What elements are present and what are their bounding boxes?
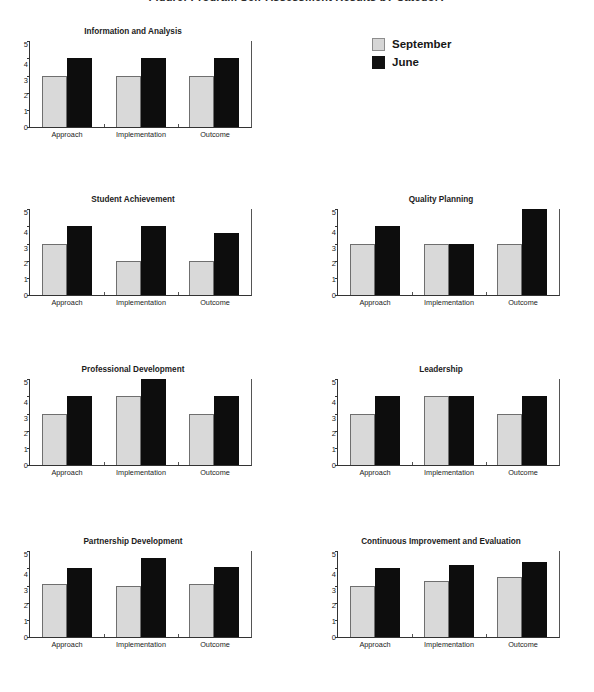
bar-group xyxy=(30,379,104,465)
bar-june-implementation[interactable] xyxy=(449,565,474,637)
y-axis-tick-label: 5 xyxy=(24,379,28,387)
bar-group xyxy=(177,551,251,637)
y-axis-tick-label: 4 xyxy=(24,571,28,579)
bar-september-outcome[interactable] xyxy=(189,584,214,637)
bar-june-outcome[interactable] xyxy=(522,209,547,295)
legend-label-june: June xyxy=(392,57,419,69)
chart-title: Continuous Improvement and Evaluation xyxy=(322,538,560,546)
x-axis-label-implementation: Implementation xyxy=(104,299,178,306)
x-axis-label-outcome: Outcome xyxy=(486,299,560,306)
y-axis-tick-label: 5 xyxy=(24,209,28,217)
bar-june-approach[interactable] xyxy=(375,226,400,295)
bar-september-approach[interactable] xyxy=(350,244,375,296)
bar-june-implementation[interactable] xyxy=(449,396,474,465)
bar-june-approach[interactable] xyxy=(375,568,400,637)
bar-september-approach[interactable] xyxy=(42,244,67,296)
bar-groups xyxy=(30,209,251,295)
bar-september-approach[interactable] xyxy=(42,76,67,128)
bar-september-implementation[interactable] xyxy=(424,244,449,296)
plot-canvas xyxy=(30,209,252,296)
bar-june-outcome[interactable] xyxy=(214,233,239,295)
x-axis-labels: ApproachImplementationOutcome xyxy=(30,131,252,138)
bar-june-outcome[interactable] xyxy=(214,567,239,638)
x-axis-label-outcome: Outcome xyxy=(178,131,252,138)
plot-canvas xyxy=(338,209,560,296)
chart-panel: Leadership543210ApproachImplementationOu… xyxy=(322,366,560,477)
x-axis-label-outcome: Outcome xyxy=(178,469,252,476)
chart-title: Information and Analysis xyxy=(14,28,252,36)
bar-groups xyxy=(30,379,251,465)
y-axis-tick-label: 4 xyxy=(24,61,28,69)
x-axis-label-outcome: Outcome xyxy=(486,469,560,476)
bar-september-approach[interactable] xyxy=(42,414,67,466)
legend-item-september: September xyxy=(372,38,451,51)
bar-june-approach[interactable] xyxy=(67,568,92,637)
chart-legend: September June xyxy=(372,38,451,69)
chart-panel: Information and Analysis543210ApproachIm… xyxy=(14,28,252,139)
bar-group xyxy=(338,379,412,465)
bar-june-approach[interactable] xyxy=(375,396,400,465)
x-axis-label-approach: Approach xyxy=(30,469,104,476)
chart-panel: Student Achievement543210ApproachImpleme… xyxy=(14,196,252,307)
bar-june-implementation[interactable] xyxy=(449,244,474,296)
bar-group xyxy=(412,209,486,295)
chart-title: Student Achievement xyxy=(14,196,252,204)
y-axis: 543210 xyxy=(322,209,338,295)
bar-june-outcome[interactable] xyxy=(214,396,239,465)
bar-september-implementation[interactable] xyxy=(424,581,449,637)
bar-june-approach[interactable] xyxy=(67,396,92,465)
chart-title: Quality Planning xyxy=(322,196,560,204)
bar-june-approach[interactable] xyxy=(67,226,92,295)
bar-june-outcome[interactable] xyxy=(522,562,547,638)
bar-september-implementation[interactable] xyxy=(116,261,141,295)
chart-title: Leadership xyxy=(322,366,560,374)
bar-group xyxy=(177,209,251,295)
plot-area: 543210 xyxy=(14,551,252,637)
bar-september-outcome[interactable] xyxy=(189,76,214,128)
y-axis: 543210 xyxy=(14,41,30,127)
x-axis-labels: ApproachImplementationOutcome xyxy=(30,299,252,306)
x-axis-label-approach: Approach xyxy=(30,131,104,138)
y-axis-tick-label: 4 xyxy=(332,399,336,407)
bar-september-implementation[interactable] xyxy=(116,76,141,128)
bar-september-outcome[interactable] xyxy=(189,414,214,466)
x-axis-label-outcome: Outcome xyxy=(486,641,560,648)
x-axis-label-implementation: Implementation xyxy=(412,469,486,476)
cut-off-figure-title: Figure: Program Self-Assessment Results … xyxy=(0,0,594,1)
bar-september-implementation[interactable] xyxy=(116,396,141,465)
bar-september-implementation[interactable] xyxy=(116,586,141,638)
bar-september-outcome[interactable] xyxy=(497,244,522,296)
bar-group xyxy=(104,379,178,465)
bar-group xyxy=(485,551,559,637)
x-axis-label-implementation: Implementation xyxy=(104,641,178,648)
bar-june-implementation[interactable] xyxy=(141,379,166,465)
bar-group xyxy=(412,551,486,637)
plot-area: 543210 xyxy=(14,209,252,295)
bar-september-approach[interactable] xyxy=(350,414,375,466)
bar-group xyxy=(485,379,559,465)
bar-june-approach[interactable] xyxy=(67,58,92,127)
plot-area: 543210 xyxy=(322,209,560,295)
bar-june-outcome[interactable] xyxy=(214,58,239,127)
bar-september-approach[interactable] xyxy=(42,584,67,637)
bar-september-outcome[interactable] xyxy=(497,577,522,637)
y-axis: 543210 xyxy=(322,551,338,637)
y-axis-tick-label: 1 xyxy=(24,618,28,626)
figure-page: Figure: Program Self-Assessment Results … xyxy=(0,0,594,692)
x-axis-label-approach: Approach xyxy=(30,641,104,648)
bar-june-outcome[interactable] xyxy=(522,396,547,465)
x-axis-label-approach: Approach xyxy=(338,469,412,476)
bar-september-approach[interactable] xyxy=(350,586,375,638)
bar-june-implementation[interactable] xyxy=(141,558,166,637)
bar-june-implementation[interactable] xyxy=(141,226,166,295)
bar-september-outcome[interactable] xyxy=(497,414,522,466)
chart-title: Partnership Development xyxy=(14,538,252,546)
x-axis-label-implementation: Implementation xyxy=(104,131,178,138)
bar-september-outcome[interactable] xyxy=(189,261,214,295)
bar-group xyxy=(177,379,251,465)
y-axis-tick-label: 1 xyxy=(332,276,336,284)
x-axis-labels: ApproachImplementationOutcome xyxy=(338,469,560,476)
bar-september-implementation[interactable] xyxy=(424,396,449,465)
bar-june-implementation[interactable] xyxy=(141,58,166,127)
y-axis: 543210 xyxy=(14,209,30,295)
